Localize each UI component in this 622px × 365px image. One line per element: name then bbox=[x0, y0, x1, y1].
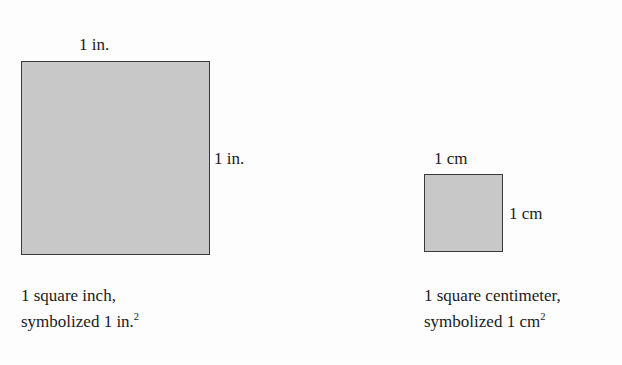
square-inch-caption-exponent: 2 bbox=[134, 311, 139, 322]
unit-area-figure: 1 in. 1 in. 1 square inch, symbolized 1 … bbox=[0, 0, 622, 365]
square-centimeter-caption-line-2: symbolized 1 cm2 bbox=[424, 309, 561, 335]
square-inch-caption: 1 square inch, symbolized 1 in.2 bbox=[21, 283, 139, 335]
square-inch-caption-line-2: symbolized 1 in.2 bbox=[21, 309, 139, 335]
square-centimeter-shape bbox=[424, 174, 503, 252]
square-centimeter-top-dimension-label: 1 cm bbox=[434, 150, 468, 167]
square-centimeter-caption-line-1: 1 square centimeter, bbox=[424, 283, 561, 309]
square-inch-right-dimension-label: 1 in. bbox=[214, 150, 244, 167]
square-inch-shape bbox=[21, 61, 210, 255]
square-centimeter-caption-line-2-text: symbolized 1 cm bbox=[424, 312, 540, 331]
square-centimeter-right-dimension-label: 1 cm bbox=[509, 205, 543, 222]
square-inch-caption-line-2-text: symbolized 1 in. bbox=[21, 312, 134, 331]
square-inch-top-dimension-label: 1 in. bbox=[79, 36, 109, 53]
square-centimeter-caption-exponent: 2 bbox=[540, 311, 545, 322]
square-inch-caption-line-1: 1 square inch, bbox=[21, 283, 139, 309]
square-centimeter-caption: 1 square centimeter, symbolized 1 cm2 bbox=[424, 283, 561, 335]
